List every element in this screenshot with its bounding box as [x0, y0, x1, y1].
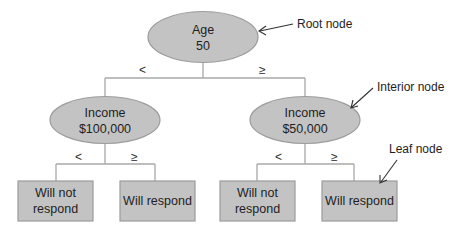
- root-node-label: Age 50: [148, 12, 258, 63]
- root-arrow-icon: [260, 24, 293, 31]
- interior-node-right-label: Income $50,000: [250, 97, 360, 144]
- interior-node-left-label: Income $100,000: [50, 97, 160, 144]
- leaf-3-label: Will not respond: [220, 181, 295, 221]
- leaf-3-line1: Will not: [237, 185, 278, 201]
- root-branch-greater-equal: ≥: [259, 64, 266, 76]
- root-threshold: 50: [196, 38, 210, 54]
- leaf-node-annotation: Leaf node: [389, 143, 442, 155]
- leaf-1-label: Will not respond: [18, 181, 93, 221]
- left-branch-less-than: <: [75, 151, 82, 163]
- leaf-4-line1: Will respond: [325, 193, 394, 209]
- leaf-1-line1: Will not: [35, 185, 76, 201]
- interior-right-threshold: $50,000: [282, 121, 327, 137]
- interior-node-annotation: Interior node: [377, 81, 444, 93]
- right-branch-less-than: <: [275, 151, 282, 163]
- root-branch-less-than: <: [139, 64, 146, 76]
- leaf-1-line2: respond: [33, 201, 78, 217]
- leaf-2-line1: Will respond: [123, 193, 192, 209]
- root-attribute: Age: [192, 22, 214, 38]
- root-node-annotation: Root node: [297, 18, 352, 30]
- interior-left-threshold: $100,000: [79, 121, 131, 137]
- leaf-arrow-icon: [381, 160, 397, 182]
- interior-left-attribute: Income: [85, 105, 126, 121]
- right-branch-greater-equal: ≥: [331, 151, 338, 163]
- leaf-2-label: Will respond: [120, 181, 195, 221]
- interior-right-attribute: Income: [285, 105, 326, 121]
- leaf-4-label: Will respond: [322, 181, 397, 221]
- left-branch-greater-equal: ≥: [131, 151, 138, 163]
- leaf-3-line2: respond: [235, 201, 280, 217]
